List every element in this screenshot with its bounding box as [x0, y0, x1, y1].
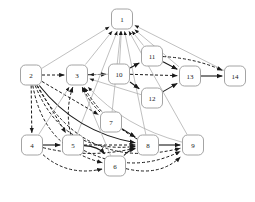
graph-node[interactable]: 2 [21, 65, 42, 85]
node-label: 5 [71, 142, 75, 150]
graph-node[interactable]: 3 [67, 65, 88, 85]
node-label: 14 [232, 73, 240, 81]
node-label: 7 [109, 119, 113, 127]
graph-node[interactable]: 5 [63, 135, 84, 155]
graph-canvas: 1234567891011121314 [0, 0, 255, 202]
graph-node[interactable]: 11 [142, 46, 163, 66]
node-label: 8 [146, 142, 150, 150]
graph-edge [130, 82, 139, 89]
node-label: 4 [30, 142, 34, 150]
graph-node[interactable]: 9 [183, 135, 204, 155]
graph-node[interactable]: 13 [180, 66, 201, 86]
graph-node[interactable]: 6 [105, 156, 126, 176]
node-label: 1 [120, 16, 124, 24]
node-label: 6 [113, 163, 117, 171]
node-label: 2 [29, 72, 33, 80]
node-label: 9 [191, 142, 195, 150]
graph-node[interactable]: 10 [109, 64, 130, 84]
graph-edge [84, 151, 180, 163]
graph-edge [163, 83, 177, 91]
node-label: 13 [187, 73, 195, 81]
graph-node[interactable]: 4 [22, 135, 43, 155]
graph-figure: 1234567891011121314 [0, 0, 255, 202]
graph-edge [122, 129, 135, 137]
graph-node[interactable]: 8 [138, 135, 159, 155]
graph-edge [85, 31, 112, 64]
node-label: 12 [149, 95, 157, 103]
graph-edge [163, 62, 177, 70]
graph-node[interactable]: 12 [142, 88, 163, 108]
graph-edge [126, 157, 180, 171]
node-label: 10 [116, 71, 124, 79]
graph-node[interactable]: 7 [101, 112, 122, 132]
graph-edge [43, 155, 102, 171]
graph-node[interactable]: 14 [225, 66, 246, 86]
graph-node[interactable]: 1 [112, 9, 133, 29]
node-label: 3 [75, 72, 79, 80]
graph-edge [31, 86, 32, 133]
graph-edge [132, 31, 144, 45]
graph-edge [68, 87, 72, 134]
node-label: 11 [149, 53, 156, 61]
